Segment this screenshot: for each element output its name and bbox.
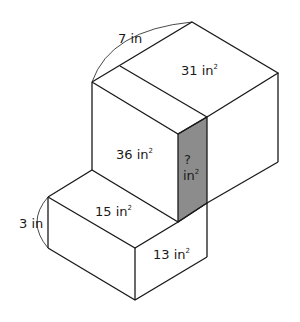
unknown-face-question: ?: [184, 152, 191, 167]
front-face-area-label: 36 in2: [116, 147, 153, 162]
small-top-area-label: 15 in2: [95, 204, 132, 219]
top-edge-label: 7 in: [118, 31, 142, 46]
height-label: 3 in: [19, 216, 43, 231]
top-face-area-label: 31 in2: [181, 63, 218, 78]
prism-diagram: 7 in 31 in2 36 in2 ? in2 15 in2 13 in2 3…: [0, 0, 300, 322]
small-front-area-label: 13 in2: [153, 247, 190, 262]
